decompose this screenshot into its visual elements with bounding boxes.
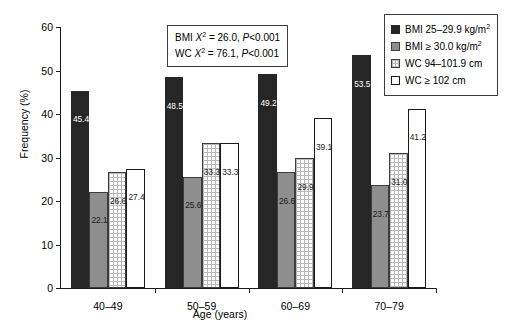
bar: 53.5 <box>352 55 371 288</box>
y-axis-tick-label: 10 <box>41 239 53 250</box>
bar-value-label: 33.3 <box>204 168 220 176</box>
bar-value-label: 53.5 <box>354 80 370 88</box>
y-axis-tick-label: 50 <box>41 65 53 76</box>
y-axis-tick <box>56 245 61 246</box>
stats-line-1: BMI X2 = 26.0, P<0.001 <box>175 30 280 46</box>
y-axis-tick-label: 0 <box>47 283 53 294</box>
legend-swatch-icon <box>391 76 400 85</box>
bar: 22.1 <box>89 192 108 288</box>
legend-item-label: WC ≥ 102 cm <box>405 75 466 86</box>
bar-value-label: 49.2 <box>260 99 276 107</box>
bar-value-label: 25.6 <box>185 201 201 209</box>
legend-item[interactable]: BMI ≥ 30.0 kg/m2 <box>391 38 490 55</box>
bar: 29.9 <box>295 158 314 288</box>
bar: 39.1 <box>314 118 333 288</box>
bar-value-label: 22.1 <box>91 216 107 224</box>
bar: 27.4 <box>126 169 145 288</box>
y-axis-tick-label: 30 <box>41 152 53 163</box>
bar: 23.7 <box>371 185 390 288</box>
y-axis-tick <box>56 114 61 115</box>
y-axis-tick-label: 20 <box>41 196 53 207</box>
bar: 33.3 <box>202 143 221 288</box>
y-axis-tick <box>56 27 61 28</box>
x-axis-category-label: 60–69 <box>281 300 310 312</box>
x-axis-category-label: 40–49 <box>93 300 122 312</box>
bar-chart-figure: Frequency (%) Age (years) 01020304050604… <box>0 0 527 329</box>
legend: BMI 25–29.9 kg/m2BMI ≥ 30.0 kg/m2WC 94–1… <box>384 14 498 96</box>
legend-item-label: WC 94–101.9 cm <box>405 58 482 69</box>
bar-value-label: 39.1 <box>316 143 332 151</box>
bar-value-label: 26.6 <box>110 197 126 205</box>
y-axis-tick <box>56 158 61 159</box>
bar: 45.4 <box>71 91 90 288</box>
bar: 26.6 <box>277 172 296 288</box>
bar: 48.5 <box>165 77 184 288</box>
x-axis-tick <box>155 288 156 293</box>
bar-value-label: 23.7 <box>373 210 389 218</box>
bar-value-label: 33.3 <box>222 168 238 176</box>
x-axis-category-label: 70–79 <box>375 300 404 312</box>
legend-item-label: BMI 25–29.9 kg/m2 <box>405 23 490 35</box>
x-axis-tick <box>342 288 343 293</box>
bar-value-label: 48.5 <box>167 102 183 110</box>
bar: 31.0 <box>389 153 408 288</box>
bar-value-label: 41.2 <box>410 133 426 141</box>
bar-value-label: 45.4 <box>73 115 89 123</box>
bar: 49.2 <box>258 74 277 288</box>
y-axis-tick <box>56 71 61 72</box>
bar-value-label: 31.0 <box>391 178 407 186</box>
y-axis-tick-label: 40 <box>41 109 53 120</box>
legend-swatch-icon <box>391 42 400 51</box>
y-axis-tick-label: 60 <box>41 22 53 33</box>
y-axis-tick <box>56 201 61 202</box>
bar-value-label: 26.6 <box>279 197 295 205</box>
bar-value-label: 29.9 <box>297 183 313 191</box>
bar: 25.6 <box>183 177 202 288</box>
legend-swatch-icon <box>391 25 400 34</box>
y-axis-tick <box>56 288 61 289</box>
bar: 26.6 <box>108 172 127 288</box>
x-axis-tick <box>249 288 250 293</box>
stats-annotation-box: BMI X2 = 26.0, P<0.001 WC X2 = 76.1, P<0… <box>167 25 288 67</box>
legend-swatch-icon <box>391 59 400 68</box>
y-axis-label: Frequency (%) <box>18 64 30 184</box>
stats-line-2: WC X2 = 76.1, P<0.001 <box>175 46 280 62</box>
bar: 33.3 <box>220 143 239 288</box>
legend-item[interactable]: BMI 25–29.9 kg/m2 <box>391 21 490 38</box>
bar-value-label: 27.4 <box>128 193 144 201</box>
x-axis-category-label: 50–59 <box>187 300 216 312</box>
x-axis-tick <box>436 288 437 293</box>
bar: 41.2 <box>408 109 427 288</box>
legend-item-label: BMI ≥ 30.0 kg/m2 <box>405 40 482 52</box>
legend-item[interactable]: WC ≥ 102 cm <box>391 72 490 89</box>
legend-item[interactable]: WC 94–101.9 cm <box>391 55 490 72</box>
